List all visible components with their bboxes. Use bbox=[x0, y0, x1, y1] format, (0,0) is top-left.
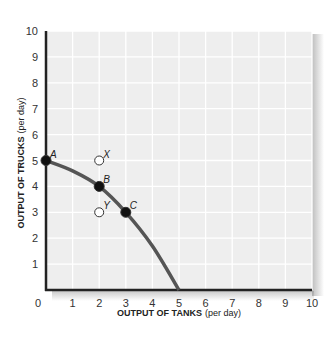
ppf-chart: 12345678910 012345678910 ABCXY OUTPUT OF… bbox=[0, 0, 335, 337]
x-tick-label: 2 bbox=[96, 297, 102, 309]
y-tick-label: 7 bbox=[32, 103, 38, 115]
x-axis-label: OUTPUT OF TANKS(per day) bbox=[117, 308, 241, 318]
x-tick-label: 9 bbox=[282, 297, 288, 309]
point-label-c: C bbox=[130, 200, 138, 211]
y-tick-label: 1 bbox=[32, 258, 38, 270]
y-tick-label: 3 bbox=[32, 206, 38, 218]
y-tick-label: 9 bbox=[32, 51, 38, 63]
point-label-x: X bbox=[102, 149, 110, 160]
x-tick-label: 8 bbox=[256, 297, 262, 309]
point-label-a: A bbox=[49, 149, 57, 160]
y-tick-label: 5 bbox=[32, 155, 38, 167]
y-axis-label: OUTPUT OF TRUCKS(per day) bbox=[16, 97, 26, 228]
x-tick-label: 0 bbox=[35, 297, 41, 309]
x-tick-label: 1 bbox=[70, 297, 76, 309]
y-tick-label: 8 bbox=[32, 77, 38, 89]
y-tick-label: 10 bbox=[26, 25, 38, 37]
x-tick-label: 10 bbox=[306, 297, 318, 309]
y-tick-labels: 12345678910 bbox=[26, 25, 38, 270]
y-tick-label: 6 bbox=[32, 129, 38, 141]
y-tick-label: 4 bbox=[32, 180, 38, 192]
y-tick-label: 2 bbox=[32, 232, 38, 244]
point-label-b: B bbox=[103, 174, 110, 185]
